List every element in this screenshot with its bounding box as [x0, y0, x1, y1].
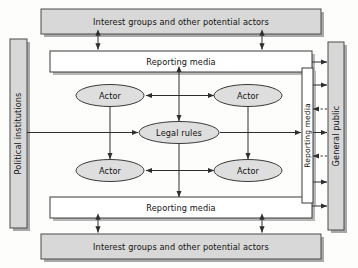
legal-rules-label: Legal rules — [156, 128, 202, 138]
political-institutions-label: Political institutions — [13, 93, 23, 175]
general-public-label: General public — [331, 106, 341, 167]
interest-groups-bottom-box: Interest groups and other potential acto… — [41, 234, 321, 259]
actor-top-left-label: Actor — [99, 91, 122, 101]
legal-rules-node: Legal rules — [139, 122, 219, 144]
diagram-svg: Interest groups and other potential acto… — [0, 0, 358, 268]
actor-bottom-left-label: Actor — [99, 166, 122, 176]
political-institutions-box: Political institutions — [10, 39, 27, 228]
actor-bottom-right-node: Actor — [214, 160, 282, 182]
diagram-canvas: Interest groups and other potential acto… — [0, 0, 358, 268]
reporting-media-right-box: Reporting media — [302, 68, 313, 203]
reporting-media-bottom-label: Reporting media — [146, 203, 215, 213]
interest-groups-top-box: Interest groups and other potential acto… — [41, 9, 321, 34]
reporting-media-top-box: Reporting media — [50, 51, 312, 72]
reporting-media-bottom-box: Reporting media — [50, 197, 312, 218]
interest-groups-top-label: Interest groups and other potential acto… — [93, 17, 269, 27]
general-public-box: General public — [328, 42, 344, 230]
reporting-media-top-label: Reporting media — [146, 57, 215, 67]
actor-top-left-node: Actor — [76, 85, 144, 107]
actor-bottom-left-node: Actor — [76, 160, 144, 182]
interest-groups-bottom-label: Interest groups and other potential acto… — [93, 242, 269, 252]
reporting-media-right-label: Reporting media — [303, 103, 312, 167]
actor-top-right-node: Actor — [214, 85, 282, 107]
actor-top-right-label: Actor — [237, 91, 260, 101]
actor-bottom-right-label: Actor — [237, 166, 260, 176]
